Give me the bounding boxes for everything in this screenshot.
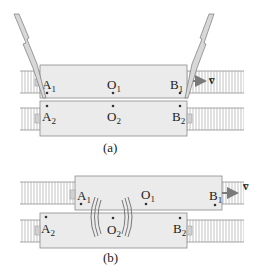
velocity-label-a: v̅: [209, 74, 215, 86]
panel-a: A1 O1 B1 A2 O2 B2 v̅ (a): [14, 14, 244, 155]
point-a2-b: [45, 216, 48, 219]
point-b2: [179, 105, 182, 108]
point-a2: [46, 105, 49, 108]
point-b1-b: [214, 204, 217, 207]
point-o1: [112, 92, 115, 95]
point-o2: [112, 105, 115, 108]
point-a1-b: [80, 203, 83, 206]
relativity-train-diagram: A1 O1 B1 A2 O2 B2 v̅ (a): [0, 0, 262, 272]
point-o2-b: [112, 217, 115, 220]
caption-b: (b): [103, 250, 118, 265]
velocity-label-b: v̅: [243, 180, 249, 192]
panel-b: A1 O1 B1 A2 O2 B2 v̅ (b): [20, 176, 249, 265]
point-o1-b: [145, 203, 148, 206]
point-a1: [46, 92, 49, 95]
caption-a: (a): [103, 140, 117, 155]
point-b2-b: [179, 217, 182, 220]
